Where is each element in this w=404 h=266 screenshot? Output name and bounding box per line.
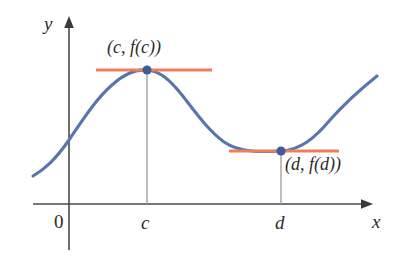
- x-tick-label-c: c: [141, 213, 149, 232]
- y-axis-label: y: [44, 14, 52, 33]
- y-axis-arrowhead: [64, 16, 74, 28]
- x-axis: [33, 199, 373, 209]
- local-maximum-point: [142, 65, 151, 74]
- local-maximum-label: (c, f(c)): [107, 38, 161, 56]
- x-tick-label-d: d: [275, 213, 285, 232]
- x-axis-arrowhead: [361, 199, 373, 209]
- local-minimum-label: (d, f(d)): [285, 155, 341, 173]
- origin-label: 0: [54, 212, 64, 231]
- x-axis-label: x: [372, 212, 380, 231]
- extrema-figure: y x 0 c d (c, f(c)) (d, f(d)): [0, 0, 404, 266]
